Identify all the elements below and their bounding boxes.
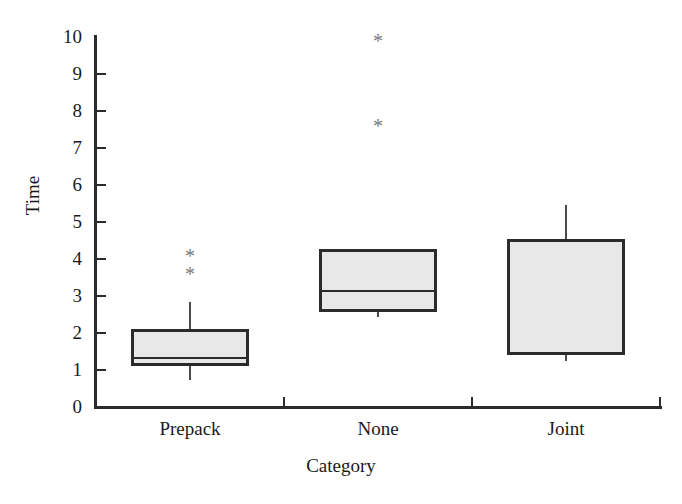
whisker-lower-joint [565,355,567,361]
y-tick-label-0: 0 [48,397,82,416]
median-joint [507,353,625,355]
y-tick-label-8: 8 [48,101,82,120]
y-tick-label-5: 5 [48,212,82,231]
boxplot-figure: Time 012345678910 PrepackNoneJoint **** … [0,0,682,504]
y-tick-label-4: 4 [48,249,82,268]
y-tick-label-6: 6 [48,175,82,194]
x-tick-label-prepack: Prepack [96,418,284,440]
outlier-prepack-0: * [182,251,198,261]
whisker-upper-prepack [189,302,191,329]
y-tick-label-3: 3 [48,286,82,305]
whisker-upper-joint [565,205,567,239]
y-tick-label-1: 1 [48,360,82,379]
y-tick-label-9: 9 [48,64,82,83]
median-none [319,290,437,292]
whisker-lower-none [377,312,379,318]
y-axis-title: Time [23,136,42,256]
median-prepack [131,357,249,359]
x-axis-title: Category [0,455,682,477]
x-tick-label-joint: Joint [472,418,660,440]
plot-area: **** [96,37,660,407]
box-none [319,249,437,312]
outlier-none-0: * [370,36,386,46]
outlier-none-1: * [370,121,386,131]
whisker-lower-prepack [189,366,191,381]
box-prepack [131,329,249,366]
y-tick-label-2: 2 [48,323,82,342]
x-tick-label-none: None [284,418,472,440]
box-joint [507,239,625,355]
y-tick-label-10: 10 [48,27,82,46]
outlier-prepack-1: * [182,269,198,279]
y-tick-label-7: 7 [48,138,82,157]
